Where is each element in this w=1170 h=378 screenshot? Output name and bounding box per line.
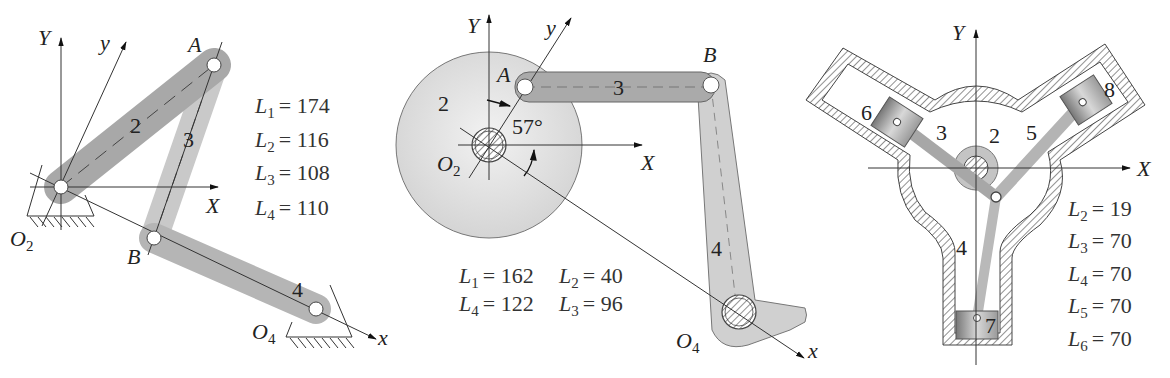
label-x: x [807,338,818,363]
pin-b [703,77,719,93]
mechanism-diagrams: Y y X x A B O2 O4 2 3 4 L1= 174 L2= 116 … [0,0,1170,378]
svg-text:L3= 108: L3= 108 [254,160,330,188]
svg-text:L3= 70: L3= 70 [1067,228,1132,256]
label-Y: Y [467,13,482,38]
label-Y: Y [952,20,967,45]
link-label-8: 8 [1104,77,1115,102]
svg-text:L5= 70: L5= 70 [1067,293,1132,321]
label-O4: O4 [676,328,700,356]
link-label-3: 3 [936,120,947,145]
link-label-5: 5 [1026,120,1037,145]
figure-disc-crank-linkage: Y y X x A B O2 O4 2 3 4 57° L1= 162 L2= … [396,13,818,363]
svg-text:L1= 174: L1= 174 [254,93,330,121]
link-label-7: 7 [985,313,996,338]
link-label-2: 2 [989,123,1000,148]
x-axis-local [460,128,804,358]
link-label-4: 4 [292,277,303,302]
label-X: X [205,193,221,218]
label-X: X [1136,156,1152,181]
svg-text:L2= 40: L2= 40 [558,263,623,291]
link-label-2: 2 [130,113,141,138]
link-label-3: 3 [183,127,194,152]
pin-b [147,231,161,245]
label-y: y [544,15,556,40]
link-label-6: 6 [861,100,872,125]
crank-pin [991,192,1001,202]
length-list: L1= 174 L2= 116 L3= 108 L4= 110 [254,93,330,223]
label-O2: O2 [10,226,33,254]
svg-text:L4= 70: L4= 70 [1067,261,1132,289]
shaft-o4 [722,295,756,329]
label-x: x [377,325,388,350]
label-A: A [186,32,202,57]
svg-text:L3= 96: L3= 96 [558,291,623,319]
svg-text:L2= 19: L2= 19 [1067,196,1132,224]
pin-o4 [309,302,323,316]
pin-a [517,79,533,95]
length-list: L1= 162 L2= 40 L4= 122 L3= 96 [458,263,623,319]
label-O4: O4 [252,319,276,347]
svg-text:L4= 110: L4= 110 [254,195,329,223]
angle-label: 57° [512,114,543,139]
pin-a [207,58,221,72]
pin-o2 [54,180,68,194]
link-label-2: 2 [438,91,449,116]
label-B: B [127,244,140,269]
figure-four-bar-linkage: Y y X x A B O2 O4 2 3 4 L1= 174 L2= 116 … [10,25,388,350]
figure-radial-engine: Y X 6 3 2 5 8 4 7 L2= 19 L3= 70 L4= 70 L… [806,20,1152,365]
svg-text:L1= 162: L1= 162 [458,263,534,291]
link-label-3: 3 [613,75,624,100]
label-A: A [495,62,511,87]
svg-text:L2= 116: L2= 116 [254,127,329,155]
label-X: X [640,150,656,175]
svg-text:L4= 122: L4= 122 [458,291,534,319]
label-y: y [98,30,110,55]
label-Y: Y [38,25,53,50]
label-B: B [703,42,716,67]
link-label-4: 4 [711,236,722,261]
length-list: L2= 19 L3= 70 L4= 70 L5= 70 L6= 70 [1067,196,1132,354]
svg-text:L6= 70: L6= 70 [1067,326,1132,354]
link-label-4: 4 [956,235,967,260]
